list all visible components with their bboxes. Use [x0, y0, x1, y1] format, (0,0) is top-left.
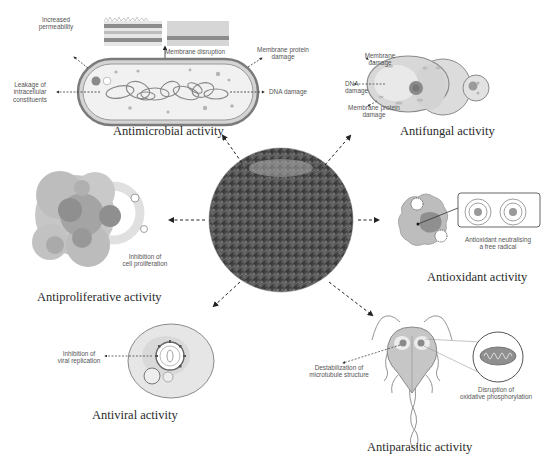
label-membrane-protein-damage-fungal: Membrane protein damage	[347, 104, 401, 119]
virus-infected-cell-illustration	[105, 324, 214, 398]
bacterium-illustration	[57, 17, 264, 125]
label-dna-damage-bacteria: DNA damage	[269, 88, 309, 95]
arrow-to-antiparasitic	[329, 282, 372, 315]
central-extract-image	[209, 148, 353, 292]
arrow-to-antifungal	[325, 136, 350, 165]
label-membrane-damage-fungal: Membrane damage	[360, 52, 400, 67]
arrow-to-antiviral	[214, 282, 240, 306]
title-antioxidant-activity: Antioxidant activity	[427, 270, 527, 285]
label-disruption-of-oxidative-phosphorylation: Disruption of oxidative phosphorylation	[452, 386, 540, 401]
title-antiparasitic-activity: Antiparasitic activity	[367, 440, 472, 455]
label-increased-permeability: Increased permeability	[34, 16, 78, 31]
label-dna-damage-fungal: DNA damage	[345, 80, 381, 95]
arrow-to-antimicrobial	[223, 136, 242, 163]
membrane-inset-intact	[104, 17, 162, 46]
label-inhibition-of-viral-replication: Inhibition of viral replication	[55, 350, 103, 365]
giardia-illustration	[343, 316, 523, 448]
title-antifungal-activity: Antifungal activity	[400, 124, 495, 139]
label-leakage-of-intracellular-constituents: Leakage of intracellular constituents	[6, 81, 54, 103]
label-membrane-protein-damage: Membrane protein damage	[253, 46, 313, 61]
membrane-inset-disrupted	[167, 21, 229, 46]
label-antioxidant-neutralising-free-radical: Antioxidant neutralising a free radical	[458, 236, 538, 251]
title-antimicrobial-activity: Antimicrobial activity	[113, 124, 224, 139]
label-destabilization-of-microtubule-structure: Destabilization of microtubule structure	[306, 364, 372, 379]
title-antiproliferative-activity: Antiproliferative activity	[37, 290, 162, 305]
title-antiviral-activity: Antiviral activity	[92, 408, 178, 423]
label-membrane-disruption: Membrane disruption	[165, 48, 235, 55]
label-inhibition-of-cell-proliferation: Inhibition of cell proliferation	[116, 253, 174, 268]
